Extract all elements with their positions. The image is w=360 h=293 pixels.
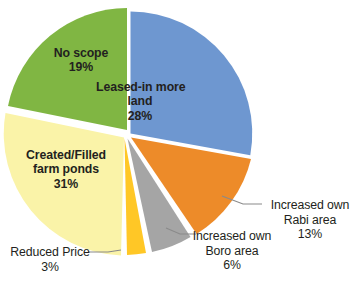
slice-label-leased-in-more-land: Leased-in more land 28% <box>96 80 184 123</box>
slice-label-value: 28% <box>96 109 184 123</box>
slice-label-line-2: land <box>96 94 184 108</box>
callout-label-value: 3% <box>2 260 98 275</box>
callout-label-reduced-price: Reduced Price 3% <box>2 245 98 274</box>
callout-label-line-1: Increased own <box>262 198 358 213</box>
slice-label-no-scope: No scope 19% <box>38 46 124 75</box>
callout-label-line-1: Increased own <box>186 229 278 244</box>
slice-label-value: 19% <box>38 60 124 74</box>
slice-label-line-2: farm ponds <box>14 162 118 176</box>
callout-label-line-1: Reduced Price <box>2 245 98 260</box>
slice-label-created-filled-farm-ponds: Created/Filled farm ponds 31% <box>14 148 118 191</box>
slice-label-line-1: Leased-in more <box>96 80 184 94</box>
pie-chart: Leased-in more land 28% No scope 19% Cre… <box>0 0 360 293</box>
callout-label-increased-own-boro-area: Increased own Boro area 6% <box>186 229 278 273</box>
callout-label-value: 6% <box>186 258 278 273</box>
callout-label-line-2: Boro area <box>186 244 278 259</box>
slice-label-value: 31% <box>14 177 118 191</box>
callout-label-line-2: Rabi area <box>262 213 358 228</box>
slice-label-line-1: Created/Filled <box>14 148 118 162</box>
slice-label-line-1: No scope <box>38 46 124 60</box>
